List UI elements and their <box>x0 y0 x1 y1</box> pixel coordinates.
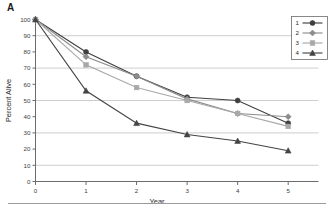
figure-panel-a: A 0102030405060708090100 012345 1234 Per… <box>0 0 334 210</box>
data-point-marker <box>286 124 291 129</box>
y-tick-label: 50 <box>24 97 31 104</box>
data-point-marker <box>285 114 291 120</box>
x-tick-label: 3 <box>185 187 189 194</box>
y-tick-label: 80 <box>24 48 31 55</box>
x-tick-label: 2 <box>135 187 139 194</box>
y-axis-title: Percent Alive <box>4 79 13 122</box>
footer-divider <box>8 203 326 204</box>
series-3 <box>33 17 290 129</box>
data-point-marker <box>235 98 240 103</box>
x-tick-label: 5 <box>286 187 290 194</box>
y-tick-label: 30 <box>24 129 31 136</box>
chart-legend[interactable]: 1234 <box>292 17 328 60</box>
data-point-marker <box>134 120 140 125</box>
data-point-marker <box>235 111 240 116</box>
y-tick-label: 60 <box>24 81 31 88</box>
survival-line-chart: 0102030405060708090100 012345 1234 Perce… <box>0 0 334 210</box>
legend-label-3: 3 <box>296 39 300 46</box>
data-point-marker <box>134 73 140 79</box>
x-axis-title: Year <box>150 197 165 206</box>
y-tick-label: 100 <box>20 16 31 23</box>
legend-label-1: 1 <box>296 19 300 26</box>
legend-marker-1 <box>310 21 315 26</box>
x-tick-label: 4 <box>236 187 240 194</box>
legend-label-4: 4 <box>296 49 300 56</box>
x-tick-label: 0 <box>34 187 38 194</box>
gridlines-group <box>36 36 319 166</box>
x-tick-label: 1 <box>84 187 88 194</box>
legend-marker-3 <box>310 41 315 46</box>
y-axis-ticks: 0102030405060708090100 <box>20 16 35 185</box>
axes-group <box>36 18 319 182</box>
y-tick-label: 20 <box>24 145 31 152</box>
data-point-marker <box>84 63 89 68</box>
y-tick-label: 40 <box>24 113 31 120</box>
legend-label-2: 2 <box>296 29 300 36</box>
y-tick-label: 90 <box>24 32 31 39</box>
y-tick-label: 70 <box>24 64 31 71</box>
y-tick-label: 0 <box>27 178 31 185</box>
data-point-marker <box>185 98 190 103</box>
x-axis-ticks: 012345 <box>34 182 291 194</box>
y-tick-label: 10 <box>24 162 31 169</box>
data-point-marker <box>134 85 139 90</box>
